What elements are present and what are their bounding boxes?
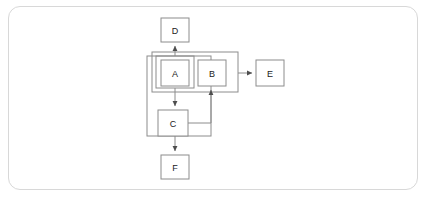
edge-c-to-b [188,90,211,123]
node-c[interactable]: C [158,110,188,136]
node-d[interactable]: D [161,18,189,42]
node-d-label: D [172,26,179,36]
node-e[interactable]: E [256,60,284,86]
node-a[interactable]: A [161,60,189,86]
node-b[interactable]: B [198,60,226,86]
node-f[interactable]: F [161,155,189,179]
diagram-canvas: D A B E C F [0,0,427,199]
node-b-label: B [209,69,215,79]
node-a-label: A [172,69,178,79]
node-f-label: F [172,163,178,173]
node-c-label: C [170,119,177,129]
node-e-label: E [267,69,273,79]
